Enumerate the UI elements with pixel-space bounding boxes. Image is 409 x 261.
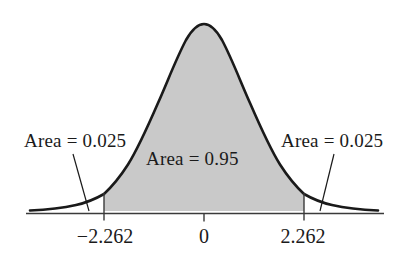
left-tail-area-label: Area = 0.025 bbox=[24, 131, 126, 150]
central-shaded-area bbox=[104, 24, 304, 211]
x-tick-label-negative-critical: −2.262 bbox=[63, 226, 147, 246]
x-tick-label-zero: 0 bbox=[184, 226, 224, 246]
distribution-figure: Area = 0.025 Area = 0.95 Area = 0.025 −2… bbox=[0, 0, 409, 261]
right-tail-area-label: Area = 0.025 bbox=[281, 131, 383, 150]
x-tick-label-positive-critical: 2.262 bbox=[265, 226, 341, 246]
center-area-label: Area = 0.95 bbox=[146, 149, 239, 168]
